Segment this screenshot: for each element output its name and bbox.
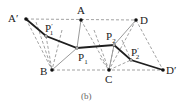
figure-caption: (b)	[81, 91, 92, 101]
label-d-prime: D′	[166, 64, 176, 76]
label-d: D	[140, 14, 148, 26]
label-b: B	[40, 65, 47, 77]
label-p2-prime: P′2	[131, 46, 140, 61]
geometry-diagram: A′ A D B C D′ P′1 P1 P2 P′2 (b)	[0, 0, 183, 105]
label-c: C	[105, 73, 112, 85]
label-p1: P1	[78, 51, 88, 66]
label-a: A	[77, 4, 85, 16]
solid-gray-lines	[52, 20, 136, 70]
label-p2: P2	[106, 30, 116, 45]
label-a-prime: A′	[8, 12, 18, 24]
